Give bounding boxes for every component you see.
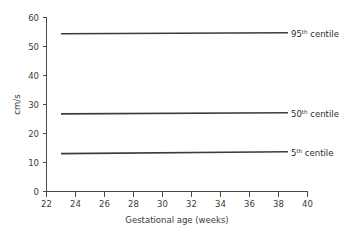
series-line-95th	[61, 33, 288, 34]
x-tick-labels: 22 24 26 28 30 32 34 36 38 40	[41, 199, 313, 209]
series-5th-centile: 5th centile	[61, 148, 333, 158]
series-line-5th	[61, 152, 288, 154]
series-label-50th-main: 50	[291, 109, 302, 119]
series-95th-centile: 95th centile	[61, 29, 339, 39]
y-tick-label-50: 50	[28, 42, 39, 52]
y-tick-label-10: 10	[28, 158, 39, 168]
axes-group	[47, 17, 308, 192]
series-label-95th: 95th centile	[291, 29, 339, 39]
series-50th-centile: 50th centile	[61, 109, 339, 119]
x-tick-label-38: 38	[273, 199, 284, 209]
x-tick-label-22: 22	[41, 199, 52, 209]
y-tick-label-60: 60	[28, 13, 39, 23]
x-tick-marks	[47, 192, 308, 197]
x-tick-label-26: 26	[99, 199, 110, 209]
centile-line-chart: 0 10 20 30 40 50 60 22 24 26 28	[0, 0, 354, 233]
x-tick-label-34: 34	[215, 199, 226, 209]
x-axis-title: Gestational age (weeks)	[125, 215, 228, 225]
series-line-50th	[61, 113, 288, 114]
chart-figure: 0 10 20 30 40 50 60 22 24 26 28	[0, 0, 354, 233]
x-tick-label-28: 28	[128, 199, 139, 209]
y-axis-title: cm/s	[12, 94, 22, 115]
series-label-5th-tail: centile	[302, 148, 333, 158]
x-tick-label-40: 40	[302, 199, 313, 209]
y-tick-label-0: 0	[34, 187, 39, 197]
x-tick-label-32: 32	[186, 199, 197, 209]
series-label-50th: 50th centile	[291, 109, 339, 119]
y-tick-labels: 0 10 20 30 40 50 60	[28, 13, 39, 197]
x-tick-label-36: 36	[244, 199, 255, 209]
x-tick-label-30: 30	[157, 199, 168, 209]
series-label-50th-tail: centile	[308, 109, 339, 119]
x-tick-label-24: 24	[70, 199, 81, 209]
series-label-5th: 5th centile	[291, 148, 333, 158]
y-tick-label-30: 30	[28, 100, 39, 110]
series-label-95th-tail: centile	[308, 29, 339, 39]
series-label-95th-main: 95	[291, 29, 302, 39]
y-tick-label-20: 20	[28, 129, 39, 139]
y-tick-label-40: 40	[28, 71, 39, 81]
y-tick-marks	[43, 18, 47, 192]
